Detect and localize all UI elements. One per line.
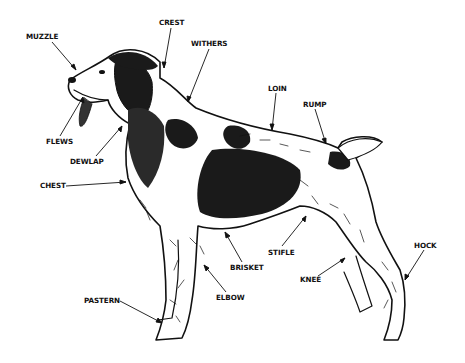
dog-nose	[68, 77, 76, 83]
label-muzzle: MUZZLE	[26, 33, 58, 40]
label-knee: KNEE	[300, 276, 321, 283]
label-loin: LOIN	[268, 85, 287, 92]
label-hock: HOCK	[414, 242, 437, 249]
label-pastern: PASTERN	[84, 297, 120, 304]
label-chest: CHEST	[40, 182, 66, 189]
dog-anatomy-diagram: MUZZLE CREST WITHERS FLEWS DEWLAP CHEST …	[0, 0, 465, 363]
dog-illustration	[0, 0, 465, 363]
label-crest: CREST	[159, 19, 184, 26]
label-brisket: BRISKET	[230, 264, 264, 271]
dog-tongue	[79, 98, 92, 126]
label-elbow: ELBOW	[216, 294, 245, 301]
label-flews: FLEWS	[46, 138, 73, 145]
label-rump: RUMP	[303, 101, 326, 108]
label-dewlap: DEWLAP	[70, 158, 104, 165]
label-withers: WITHERS	[191, 40, 227, 47]
dog-eye	[99, 70, 105, 74]
label-stifle: STIFLE	[268, 249, 295, 256]
